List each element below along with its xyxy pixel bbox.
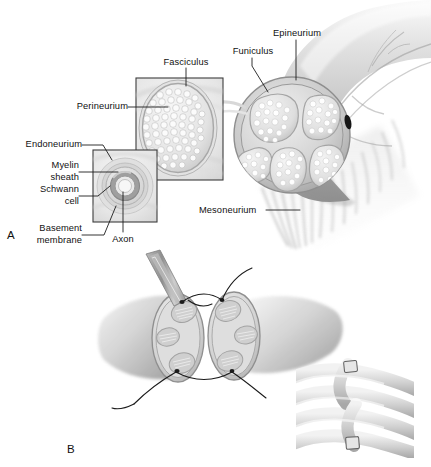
coiled-nerve-inset: [292, 360, 428, 458]
label-endoneurium: Endoneurium: [0, 139, 82, 150]
funiculus: [238, 148, 273, 183]
funiculus: [250, 94, 298, 143]
label-schwann-cell-line2: cell: [0, 196, 79, 207]
figure-root: Fasciculus Perineurium Endoneurium Myeli…: [0, 0, 431, 467]
label-fasciculus: Fasciculus: [156, 57, 216, 68]
nerve-repair-group: [98, 250, 428, 458]
label-schwann-cell-line1: Schwann: [0, 184, 79, 195]
label-axon: Axon: [105, 234, 141, 245]
label-mesoneurium: Mesoneurium: [199, 205, 256, 216]
right-nerve-segment: [248, 296, 343, 373]
suture-bottom-tail-right: [232, 372, 266, 398]
coil-turns: [292, 364, 428, 458]
panel-letter-b: B: [67, 443, 75, 455]
label-epineurium: Epineurium: [264, 28, 330, 39]
funiculus: [270, 148, 306, 191]
suture-bottom-tail-left-end: [112, 404, 134, 409]
label-myelin-sheath-line1: Myelin: [0, 160, 79, 171]
label-funiculus: Funiculus: [224, 46, 282, 57]
axon-inset-box: [93, 150, 157, 222]
label-myelin-sheath-line2: sheath: [0, 172, 79, 183]
label-perineurium: Perineurium: [48, 101, 128, 112]
axon-core: [119, 180, 132, 193]
panel-letter-a: A: [7, 229, 15, 241]
